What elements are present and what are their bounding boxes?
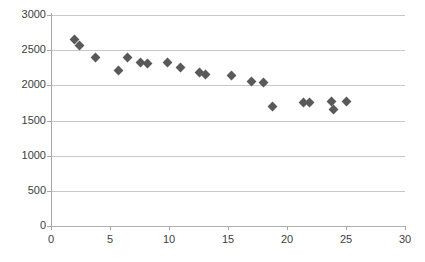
- data-point: [91, 53, 101, 63]
- y-tick-label-2000: 2000: [6, 79, 46, 90]
- y-tick-mark-3000: [47, 15, 51, 16]
- y-tick-label-3000: 3000: [6, 9, 46, 20]
- y-tick-label-500: 500: [6, 185, 46, 196]
- x-tick-label-15: 15: [213, 234, 243, 245]
- y-tick-label-1500: 1500: [6, 115, 46, 126]
- data-point: [123, 52, 133, 62]
- x-tick-mark-30: [405, 226, 406, 230]
- y-tick-mark-2500: [47, 50, 51, 51]
- x-tick-mark-5: [110, 226, 111, 230]
- y-axis-line: [51, 13, 52, 228]
- gridline-y-3000: [51, 15, 405, 16]
- gridline-y-1000: [51, 156, 405, 157]
- data-point: [163, 58, 173, 68]
- y-tick-mark-1500: [47, 121, 51, 122]
- plot-area: [51, 15, 405, 226]
- y-tick-mark-2000: [47, 85, 51, 86]
- data-point: [328, 104, 338, 114]
- x-tick-label-20: 20: [272, 234, 302, 245]
- x-tick-label-10: 10: [154, 234, 184, 245]
- data-point: [176, 62, 186, 72]
- gridline-y-2500: [51, 50, 405, 51]
- scatter-chart: 050010001500200025003000 051015202530: [0, 0, 425, 262]
- x-tick-label-25: 25: [331, 234, 361, 245]
- y-tick-label-0: 0: [6, 220, 46, 231]
- x-tick-label-30: 30: [390, 234, 420, 245]
- x-tick-label-5: 5: [95, 234, 125, 245]
- data-point: [268, 101, 278, 111]
- gridline-y-1500: [51, 121, 405, 122]
- x-tick-label-0: 0: [36, 234, 66, 245]
- y-tick-mark-1000: [47, 156, 51, 157]
- x-tick-mark-25: [346, 226, 347, 230]
- gridline-y-2000: [51, 85, 405, 86]
- data-point: [227, 71, 237, 81]
- data-point: [143, 59, 153, 69]
- data-point: [113, 66, 123, 76]
- x-tick-mark-10: [169, 226, 170, 230]
- y-tick-label-1000: 1000: [6, 150, 46, 161]
- x-tick-mark-20: [287, 226, 288, 230]
- gridline-y-500: [51, 191, 405, 192]
- x-tick-mark-15: [228, 226, 229, 230]
- x-tick-mark-0: [51, 226, 52, 230]
- y-tick-label-2500: 2500: [6, 44, 46, 55]
- data-point: [341, 97, 351, 107]
- y-tick-mark-500: [47, 191, 51, 192]
